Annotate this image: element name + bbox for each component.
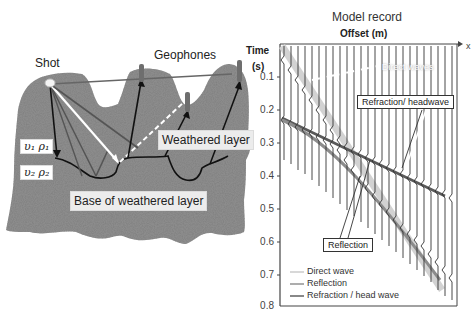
geophone-icon	[185, 92, 190, 112]
geophone-icon	[237, 60, 242, 82]
base-weathered-layer-label: Base of weathered layer	[70, 191, 207, 211]
cross-section-diagram: Shot Geophones Weathered layer Base of w…	[0, 0, 260, 318]
legend-refraction: Refraction / head wave	[307, 290, 399, 300]
refraction-annotation: Refraction/ headwave	[357, 95, 454, 109]
legend-reflection: Reflection	[307, 278, 347, 288]
layer2-velocity-density-label: υ₂ ρ₂	[20, 165, 53, 180]
model-record-chart: Model record Offset (m) x Time (s) 0.1 0…	[260, 0, 472, 318]
cross-section-graphic	[0, 0, 260, 318]
legend-direct-wave: Direct wave	[307, 266, 354, 276]
direct-waves-annotation: Direct waves	[382, 62, 434, 72]
geophones-label: Geophones	[154, 48, 216, 62]
shot-label: Shot	[35, 56, 60, 70]
layer1-velocity-density-label: υ₁ ρ₁	[20, 139, 53, 154]
geophone-icon	[139, 64, 144, 82]
shot-point-icon	[45, 79, 55, 87]
weathered-layer-label: Weathered layer	[158, 130, 254, 150]
reflection-annotation: Reflection	[323, 238, 373, 252]
seismic-traces-graphic	[260, 0, 472, 318]
